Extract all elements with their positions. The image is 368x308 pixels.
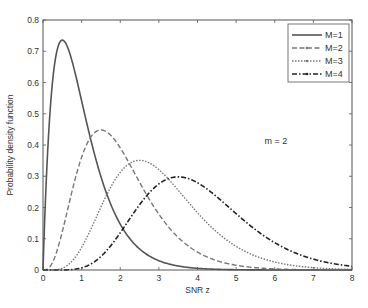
y-tick-label: 0.2	[27, 203, 39, 213]
x-tick-label: 2	[118, 273, 123, 283]
x-tick-label: 1	[79, 273, 84, 283]
x-tick-label: 0	[41, 273, 46, 283]
legend-label: M=2	[325, 43, 343, 53]
x-tick-label: 6	[272, 273, 277, 283]
y-tick-label: 0.7	[27, 46, 39, 56]
y-tick-label: 0	[34, 265, 39, 275]
legend: M=1M=2M=3M=4	[288, 24, 349, 82]
y-tick-label: 0.5	[27, 109, 39, 119]
y-tick-label: 0.6	[27, 78, 39, 88]
m-annotation: m = 2	[265, 136, 288, 146]
x-tick-label: 8	[350, 273, 355, 283]
x-tick-label: 5	[234, 273, 239, 283]
legend-label: M=3	[325, 56, 343, 66]
legend-marker	[306, 73, 309, 76]
y-tick-label: 0.1	[27, 234, 39, 244]
x-tick-label: 4	[195, 273, 200, 283]
x-axis-label: SNR z	[185, 285, 210, 295]
legend-marker	[306, 60, 309, 63]
legend-marker	[306, 47, 309, 50]
y-tick-label: 0.8	[27, 15, 39, 25]
x-tick-label: 3	[157, 273, 162, 283]
y-tick-label: 0.4	[27, 140, 39, 150]
legend-label: M=4	[325, 69, 343, 79]
legend-label: M=1	[325, 30, 343, 40]
x-tick-label: 7	[311, 273, 316, 283]
y-tick-label: 0.3	[27, 171, 39, 181]
pdf-line-chart: 012345678 00.10.20.30.40.50.60.70.8 SNR …	[0, 0, 368, 308]
y-axis-label: Probability density function	[5, 94, 15, 195]
